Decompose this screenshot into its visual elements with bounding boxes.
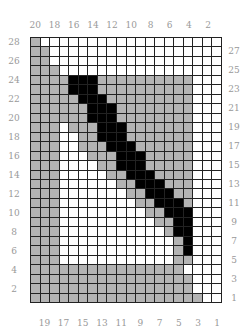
- stitch-cell: [193, 38, 203, 47]
- stitch-cell: [155, 199, 165, 208]
- stitch-cell: [31, 199, 41, 208]
- stitch-cell: [146, 76, 156, 85]
- stitch-cell: [165, 123, 175, 132]
- stitch-cell: [107, 237, 117, 246]
- stitch-cell: [203, 294, 213, 303]
- stitch-cell: [60, 104, 70, 113]
- stitch-cell: [174, 208, 184, 217]
- stitch-cell: [50, 199, 60, 208]
- stitch-cell: [88, 275, 98, 284]
- bottom-column-label: 19: [36, 318, 52, 328]
- stitch-cell: [184, 199, 194, 208]
- stitch-cell: [127, 218, 137, 227]
- stitch-cell: [69, 95, 79, 104]
- stitch-cell: [69, 265, 79, 274]
- stitch-cell: [117, 189, 127, 198]
- stitch-cell: [155, 294, 165, 303]
- stitch-cell: [107, 123, 117, 132]
- stitch-cell: [79, 76, 89, 85]
- stitch-cell: [98, 123, 108, 132]
- stitch-cell: [203, 189, 213, 198]
- stitch-cell: [155, 246, 165, 255]
- stitch-cell: [184, 66, 194, 75]
- stitch-cell: [107, 142, 117, 151]
- stitch-cell: [60, 38, 70, 47]
- stitch-cell: [31, 180, 41, 189]
- stitch-cell: [165, 133, 175, 142]
- left-row-label: 4: [6, 265, 22, 275]
- stitch-cell: [50, 284, 60, 293]
- stitch-cell: [60, 152, 70, 161]
- stitch-cell: [69, 218, 79, 227]
- right-row-label: 23: [226, 84, 242, 94]
- right-row-label: 5: [226, 255, 242, 265]
- stitch-cell: [69, 85, 79, 94]
- stitch-cell: [69, 294, 79, 303]
- stitch-cell: [41, 104, 51, 113]
- stitch-cell: [127, 104, 137, 113]
- stitch-cell: [31, 152, 41, 161]
- stitch-cell: [193, 208, 203, 217]
- stitch-cell: [203, 142, 213, 151]
- stitch-cell: [117, 208, 127, 217]
- stitch-cell: [107, 38, 117, 47]
- stitch-cell: [127, 171, 137, 180]
- stitch-cell: [98, 171, 108, 180]
- stitch-cell: [50, 95, 60, 104]
- stitch-cell: [79, 171, 89, 180]
- stitch-cell: [69, 38, 79, 47]
- stitch-cell: [117, 275, 127, 284]
- stitch-cell: [136, 265, 146, 274]
- stitch-cell: [50, 171, 60, 180]
- knitting-chart-grid: [30, 37, 222, 303]
- stitch-cell: [107, 133, 117, 142]
- stitch-cell: [212, 152, 222, 161]
- stitch-cell: [107, 294, 117, 303]
- stitch-cell: [203, 123, 213, 132]
- stitch-cell: [88, 152, 98, 161]
- stitch-cell: [146, 66, 156, 75]
- stitch-cell: [127, 161, 137, 170]
- stitch-cell: [31, 161, 41, 170]
- stitch-cell: [41, 85, 51, 94]
- stitch-cell: [155, 114, 165, 123]
- stitch-cell: [41, 199, 51, 208]
- stitch-cell: [127, 284, 137, 293]
- stitch-cell: [155, 123, 165, 132]
- stitch-cell: [107, 208, 117, 217]
- stitch-cell: [165, 218, 175, 227]
- stitch-cell: [174, 294, 184, 303]
- right-row-label: 27: [226, 46, 242, 56]
- stitch-cell: [146, 275, 156, 284]
- stitch-cell: [31, 237, 41, 246]
- stitch-cell: [98, 275, 108, 284]
- right-row-label: 21: [226, 103, 242, 113]
- stitch-cell: [50, 47, 60, 56]
- stitch-cell: [127, 199, 137, 208]
- stitch-cell: [41, 237, 51, 246]
- stitch-cell: [212, 38, 222, 47]
- stitch-cell: [212, 199, 222, 208]
- stitch-cell: [31, 57, 41, 66]
- stitch-cell: [98, 85, 108, 94]
- stitch-cell: [174, 133, 184, 142]
- stitch-cell: [50, 161, 60, 170]
- stitch-cell: [203, 208, 213, 217]
- stitch-cell: [79, 133, 89, 142]
- stitch-cell: [174, 227, 184, 236]
- stitch-cell: [50, 66, 60, 75]
- stitch-cell: [88, 256, 98, 265]
- bottom-column-label: 3: [190, 318, 206, 328]
- stitch-cell: [60, 76, 70, 85]
- stitch-cell: [155, 133, 165, 142]
- stitch-cell: [107, 275, 117, 284]
- stitch-cell: [155, 104, 165, 113]
- stitch-cell: [127, 38, 137, 47]
- stitch-cell: [117, 152, 127, 161]
- stitch-cell: [60, 47, 70, 56]
- stitch-cell: [184, 265, 194, 274]
- stitch-cell: [41, 95, 51, 104]
- top-column-label: 6: [162, 20, 178, 30]
- stitch-cell: [31, 256, 41, 265]
- stitch-cell: [60, 123, 70, 132]
